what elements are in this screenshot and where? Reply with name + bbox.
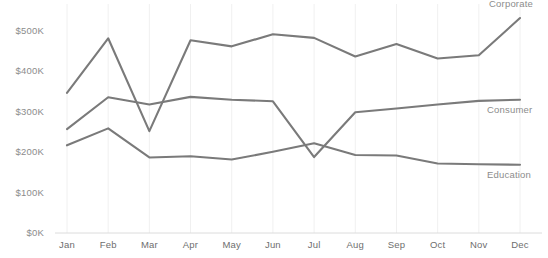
series-label-corporate[interactable]: Corporate xyxy=(489,0,533,9)
y-tick-label-0k: $0K xyxy=(0,228,44,238)
y-tick-label-400k: $400K xyxy=(0,66,44,76)
y-tick-label-300k: $300K xyxy=(0,107,44,117)
series-lines xyxy=(67,18,520,165)
x-tick-label-nov: Nov xyxy=(459,240,499,250)
x-tick-label-feb: Feb xyxy=(88,240,128,250)
y-tick-label-100k: $100K xyxy=(0,188,44,198)
series-line-education[interactable] xyxy=(67,128,520,164)
x-tick-label-oct: Oct xyxy=(418,240,458,250)
y-tick-label-200k: $200K xyxy=(0,147,44,157)
x-tick-label-aug: Aug xyxy=(335,240,375,250)
x-tick-label-apr: Apr xyxy=(171,240,211,250)
chart-plot-area xyxy=(0,0,548,258)
line-chart: $500K$400K$300K$200K$100K$0K JanFebMarAp… xyxy=(0,0,548,258)
x-tick-label-mar: Mar xyxy=(129,240,169,250)
gridlines xyxy=(67,4,520,233)
x-tick-label-sep: Sep xyxy=(376,240,416,250)
x-tick-label-jun: Jun xyxy=(253,240,293,250)
x-tick-label-may: May xyxy=(212,240,252,250)
x-tick-label-jan: Jan xyxy=(47,240,87,250)
series-label-consumer[interactable]: Consumer xyxy=(487,105,532,115)
series-label-education[interactable]: Education xyxy=(487,170,531,180)
x-tick-label-dec: Dec xyxy=(500,240,540,250)
x-tick-label-jul: Jul xyxy=(294,240,334,250)
series-line-corporate[interactable] xyxy=(67,18,520,131)
y-tick-label-500k: $500K xyxy=(0,26,44,36)
